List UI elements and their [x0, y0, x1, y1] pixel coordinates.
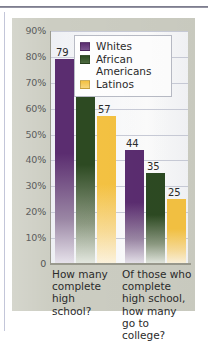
bar-value-label-group1-latinos: 25	[168, 188, 181, 198]
cat1-line4: how many	[122, 305, 177, 317]
legend-swatch-latinos	[80, 80, 90, 89]
cat1-line5: go to college?	[122, 317, 165, 341]
legend-label-latinos: Latinos	[96, 78, 134, 90]
bar-group0-whites	[55, 59, 74, 264]
y-axis-tick-90: 90%	[25, 26, 46, 36]
bar-value-label-group1-african-americans: 35	[147, 162, 160, 172]
category-label-high-school: How many complete high school?	[52, 268, 118, 317]
bar-value-label-group0-latinos: 57	[98, 105, 111, 115]
legend-label-line1: African	[96, 53, 133, 65]
cat1-line1: Of those who	[122, 268, 191, 280]
legend-label-whites: Whites	[96, 40, 132, 52]
cat0-line3: high	[52, 292, 75, 304]
legend-label-african-americans: AfricanAmericans	[96, 53, 151, 77]
cat1-line2: complete	[122, 280, 171, 292]
cat0-line4: school?	[52, 305, 91, 317]
bar-group1-african-americans	[146, 173, 165, 264]
y-axis: 90%80%70%60%50%40%30%20%10%0	[12, 26, 48, 264]
legend-item-whites: Whites	[80, 40, 167, 52]
cat0-line1: How many	[52, 268, 108, 280]
page-gutter-line	[4, 12, 5, 331]
page-top-rule	[0, 6, 208, 8]
chart-figure-panel: 90%80%70%60%50%40%30%20%10%0 79715744352…	[12, 18, 195, 311]
bar-value-label-group1-whites: 44	[126, 139, 139, 149]
y-axis-tick-20: 20%	[25, 207, 46, 217]
y-axis-tick-30: 30%	[25, 181, 46, 191]
bar-group1-whites	[125, 150, 144, 264]
legend-item-latinos: Latinos	[80, 78, 167, 90]
legend-item-african-americans: AfricanAmericans	[80, 53, 167, 77]
y-axis-tick-50: 50%	[25, 130, 46, 140]
legend-swatch-whites	[80, 42, 90, 51]
chart-legend: Whites AfricanAmericans Latinos	[74, 35, 172, 97]
y-axis-tick-80: 80%	[25, 52, 46, 62]
y-axis-tick-10: 10%	[25, 233, 46, 243]
bar-value-label-group0-whites: 79	[56, 48, 69, 58]
legend-label-line2: Americans	[96, 65, 151, 77]
cat0-line2: complete	[52, 280, 101, 292]
bar-group0-latinos	[97, 116, 116, 264]
cat1-line3: high school,	[122, 292, 185, 304]
category-labels: How many complete high school? Of those …	[50, 268, 191, 310]
legend-swatch-african-americans	[80, 55, 90, 64]
bar-group1-latinos	[167, 199, 186, 264]
category-label-college: Of those who complete high school, how m…	[122, 268, 192, 341]
y-axis-tick-40: 40%	[25, 155, 46, 165]
y-axis-tick-60: 60%	[25, 104, 46, 114]
y-axis-tick-0: 0	[40, 259, 46, 269]
x-axis-baseline	[50, 263, 191, 265]
y-axis-tick-70: 70%	[25, 78, 46, 88]
bar-group0-african-americans	[76, 80, 95, 264]
